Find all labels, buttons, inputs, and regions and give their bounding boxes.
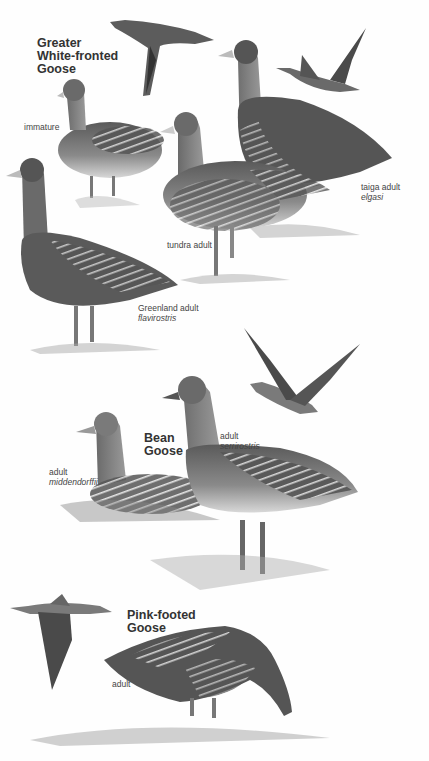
goose-illustrations	[0, 0, 429, 761]
title-line: Goose	[37, 63, 118, 76]
goose-flying-right	[276, 28, 366, 92]
goose-pinkfooted-flying	[10, 594, 112, 690]
label-scientific: elgasi	[361, 192, 400, 202]
label-text: taiga adult	[361, 182, 400, 192]
label-greenland-adult: Greenland adult flavirostris	[138, 303, 199, 323]
label-scientific: serrirostris	[220, 441, 260, 451]
goose-flying-top	[110, 20, 214, 96]
label-text: adult	[112, 679, 130, 689]
species-title-pink-footed: Pink-footed Goose	[127, 609, 196, 635]
goose-pinkfooted-adult	[30, 626, 330, 746]
goose-immature	[57, 79, 164, 208]
goose-bean-flying	[244, 328, 360, 414]
label-text: adult	[220, 431, 238, 441]
label-tundra-adult: tundra adult	[167, 240, 212, 250]
label-adult-serrirostris: adult serrirostris	[220, 431, 260, 451]
label-text: tundra adult	[167, 240, 212, 250]
label-immature: immature	[24, 122, 59, 132]
title-line: Goose	[144, 445, 183, 458]
label-scientific: flavirostris	[138, 313, 199, 323]
label-scientific: middendorffii	[49, 477, 98, 487]
label-taiga-adult: taiga adult elgasi	[361, 182, 400, 202]
label-text: Greenland adult	[138, 303, 199, 313]
species-title-greater-white-fronted: Greater White-fronted Goose	[37, 37, 118, 76]
label-text: adult	[49, 467, 67, 477]
species-title-bean: Bean Goose	[144, 432, 183, 458]
title-line: Goose	[127, 622, 196, 635]
label-adult-pink-footed: adult	[112, 679, 130, 689]
label-adult-middendorffii: adult middendorffii	[49, 467, 98, 487]
label-text: immature	[24, 122, 59, 132]
field-guide-page: Greater White-fronted Goose immature tai…	[0, 0, 429, 761]
